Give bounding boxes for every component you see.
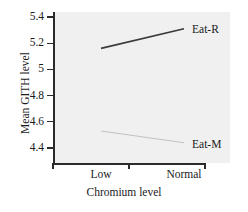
series-label-eat-m: Eat-M	[192, 138, 221, 150]
series-line-eat-m	[101, 131, 184, 143]
series-line-eat-r	[101, 29, 184, 49]
interaction-plot-figure: 5.45.254.84.64.4 LowNormal Mean GITH lev…	[0, 0, 248, 212]
series-label-eat-r: Eat-R	[192, 23, 219, 35]
